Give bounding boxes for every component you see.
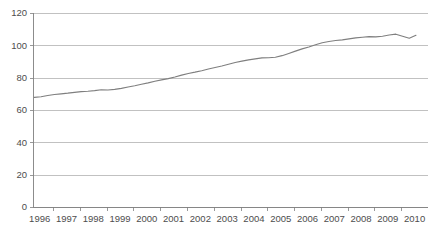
y-tick-label: 40 xyxy=(16,137,27,148)
y-tick-label: 120 xyxy=(11,7,27,18)
y-tick-label: 0 xyxy=(22,201,27,212)
x-tick-label: 2008 xyxy=(350,213,371,224)
line-chart: 020406080100120 199619971998199920002001… xyxy=(0,0,442,237)
y-tick-label: 60 xyxy=(16,104,27,115)
chart-background xyxy=(0,0,442,237)
x-tick-label: 2007 xyxy=(324,213,345,224)
x-tick-label: 1999 xyxy=(109,213,130,224)
x-tick-label: 2000 xyxy=(136,213,157,224)
x-tick-label: 1996 xyxy=(29,213,50,224)
x-tick-label: 1998 xyxy=(83,213,104,224)
x-tick-label: 2006 xyxy=(297,213,318,224)
x-axis-tick-labels: 1996199719981999200020012002200320042005… xyxy=(29,213,425,224)
x-tick-label: 2002 xyxy=(190,213,211,224)
x-tick-label: 2001 xyxy=(163,213,184,224)
y-tick-label: 20 xyxy=(16,169,27,180)
x-tick-label: 2003 xyxy=(217,213,238,224)
x-tick-label: 1997 xyxy=(56,213,77,224)
x-tick-label: 2004 xyxy=(243,213,264,224)
y-tick-label: 100 xyxy=(11,40,27,51)
chart-canvas: 020406080100120 199619971998199920002001… xyxy=(0,0,442,237)
x-tick-label: 2009 xyxy=(377,213,398,224)
y-tick-label: 80 xyxy=(16,72,27,83)
x-tick-label: 2010 xyxy=(404,213,425,224)
x-tick-label: 2005 xyxy=(270,213,291,224)
